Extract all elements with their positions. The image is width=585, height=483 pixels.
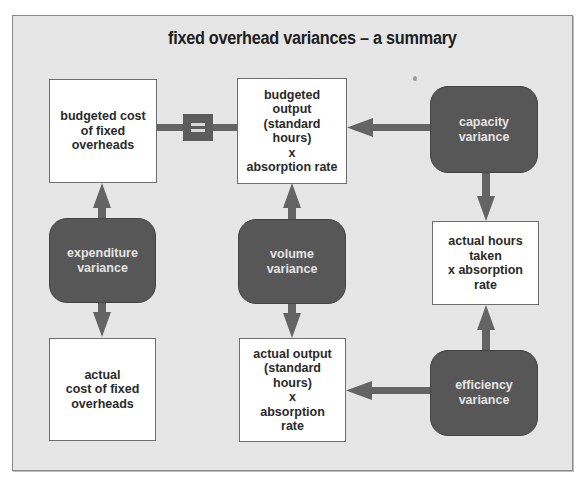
- node-expenditure-variance: expenditure variance: [49, 218, 156, 303]
- node-budgeted-cost: budgeted cost of fixed overheads: [49, 79, 157, 183]
- node-label: actual output (standard hours) x absorpt…: [253, 347, 331, 434]
- node-actual-output: actual output (standard hours) x absorpt…: [239, 338, 346, 442]
- node-capacity-variance: capacity variance: [430, 86, 538, 173]
- arrow-efficiency-to-actual-output: [346, 381, 431, 400]
- node-label: budgeted cost of fixed overheads: [60, 109, 145, 153]
- node-actual-cost: actual cost of fixed overheads: [49, 338, 156, 441]
- arrow-volume-to-budgeted-output: [283, 183, 301, 220]
- node-actual-hours: actual hours taken x absorption rate: [432, 221, 539, 305]
- node-efficiency-variance: efficiency variance: [430, 350, 538, 436]
- arrow-expenditure-to-budgeted-cost: [93, 183, 111, 219]
- arrow-volume-to-actual-output: [283, 303, 301, 338]
- arrow-capacity-to-actual-hours: [477, 172, 495, 221]
- node-label: actual cost of fixed overheads: [66, 368, 140, 412]
- node-label: actual hours taken x absorption rate: [448, 234, 523, 292]
- arrow-expenditure-to-actual-cost: [93, 302, 111, 337]
- node-budgeted-output: budgeted output (standard hours) x absor…: [237, 78, 347, 184]
- node-label: budgeted output (standard hours) x absor…: [247, 88, 338, 175]
- node-label: expenditure variance: [67, 246, 138, 276]
- arrow-efficiency-to-actual-hours: [477, 305, 495, 351]
- node-volume-variance: volume variance: [238, 219, 346, 304]
- node-label: volume variance: [267, 247, 318, 277]
- arrow-capacity-to-budgeted-output: [347, 118, 431, 137]
- node-label: capacity variance: [459, 115, 510, 145]
- equals-icon: [183, 114, 213, 141]
- node-label: efficiency variance: [455, 378, 513, 408]
